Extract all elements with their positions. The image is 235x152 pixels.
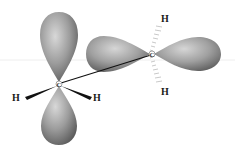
left-lobe: [86, 36, 150, 72]
hashed-bond-down: [150, 57, 162, 82]
left-p-orbital: [40, 12, 78, 145]
hydrogen-label-left: H: [12, 92, 20, 103]
svg-text:C: C: [57, 81, 62, 89]
carbon-atom-right: C: [149, 51, 155, 59]
carbon-atom-left: C: [56, 81, 62, 89]
top-lobe: [40, 12, 78, 82]
bottom-lobe: [41, 86, 77, 145]
twisted-ethylene-orbital-diagram: C C H H H H: [0, 0, 235, 152]
right-lobe: [154, 37, 221, 71]
hydrogen-label-top: H: [161, 13, 169, 24]
hydrogen-label-bottom: H: [161, 86, 169, 97]
hashed-bond-up: [150, 26, 162, 51]
hydrogen-label-mid: H: [93, 92, 101, 103]
svg-text:C: C: [150, 51, 155, 59]
